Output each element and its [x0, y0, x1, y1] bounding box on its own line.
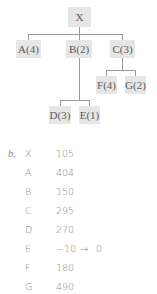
row-result: 0	[96, 242, 102, 256]
list-item: A 404	[0, 166, 157, 185]
row-node: C	[25, 204, 32, 218]
row-node: G	[25, 280, 32, 294]
node-g: G(2)	[125, 76, 146, 94]
node-a: A(4)	[16, 40, 41, 58]
node-b: B(2)	[66, 40, 92, 58]
row-node: A	[25, 166, 32, 180]
node-x: X	[68, 7, 91, 27]
node-c: C(3)	[110, 40, 135, 58]
node-f: F(4)	[96, 76, 117, 94]
list-item: D 270	[0, 223, 157, 242]
node-e: E(1)	[79, 106, 100, 124]
list-item: C 295	[0, 204, 157, 223]
list-item: E −10 → 0	[0, 242, 157, 261]
row-node: E	[25, 242, 31, 256]
row-value: −10	[56, 242, 76, 256]
list-item: F 180	[0, 261, 157, 280]
arrow-right-icon: →	[80, 242, 88, 256]
edge-c-down	[122, 58, 123, 70]
edge-b-children-bar	[60, 100, 90, 101]
node-d: D(3)	[49, 106, 71, 124]
edge-c-children-bar	[106, 70, 136, 71]
row-node: D	[25, 223, 32, 237]
part-label: b.	[8, 147, 16, 161]
row-value: 105	[56, 147, 74, 161]
row-value: 180	[56, 261, 74, 275]
edge-b-down	[79, 58, 80, 100]
row-node: B	[25, 185, 31, 199]
list-item: G 490	[0, 280, 157, 294]
row-node: X	[25, 147, 32, 161]
row-value: 150	[56, 185, 74, 199]
row-value: 295	[56, 204, 74, 218]
edge-level1-bar	[28, 34, 123, 35]
row-value: 490	[56, 280, 74, 294]
row-value: 404	[56, 166, 74, 180]
list-item: b. X 105	[0, 147, 157, 166]
row-node: F	[25, 261, 30, 275]
list-item: B 150	[0, 185, 157, 204]
edge-x-down	[79, 27, 80, 34]
row-value: 270	[56, 223, 74, 237]
